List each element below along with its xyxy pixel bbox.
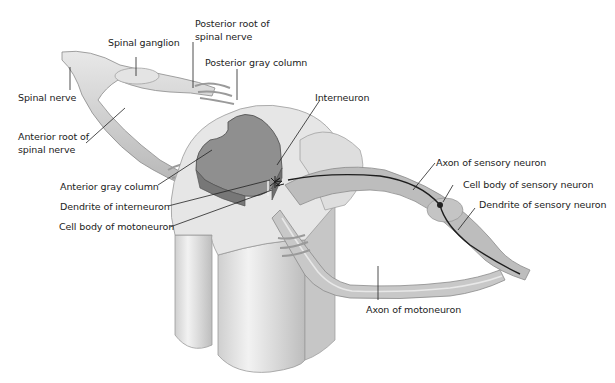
label-anterior-gray-column: Anterior gray column [60,181,159,193]
spinal-cord-diagram: Spinal nerve Spinal ganglion Posterior r… [0,0,615,383]
label-posterior-root-line1: Posterior root of [195,18,270,30]
label-axon-of-motoneuron: Axon of motoneuron [366,304,461,316]
label-anterior-root-line2: spinal nerve [18,144,75,156]
label-spinal-nerve: Spinal nerve [18,92,76,104]
label-posterior-gray-column: Posterior gray column [205,57,307,69]
label-axon-of-sensory-neuron: Axon of sensory neuron [436,157,546,169]
spinal-ganglion-shape [115,68,159,84]
label-interneuron: Interneuron [315,92,369,104]
label-posterior-root-line2: spinal nerve [195,31,252,43]
label-cell-body-of-sensory-neuron: Cell body of sensory neuron [463,179,593,191]
label-cell-body-of-motoneuron: Cell body of motoneuron [59,221,174,233]
label-spinal-ganglion: Spinal ganglion [108,37,180,49]
label-dendrite-of-sensory-neuron: Dendrite of sensory neuron [479,199,606,211]
label-dendrite-of-interneuron: Dendrite of interneuron [60,201,170,213]
label-anterior-root-line1: Anterior root of [18,131,89,143]
